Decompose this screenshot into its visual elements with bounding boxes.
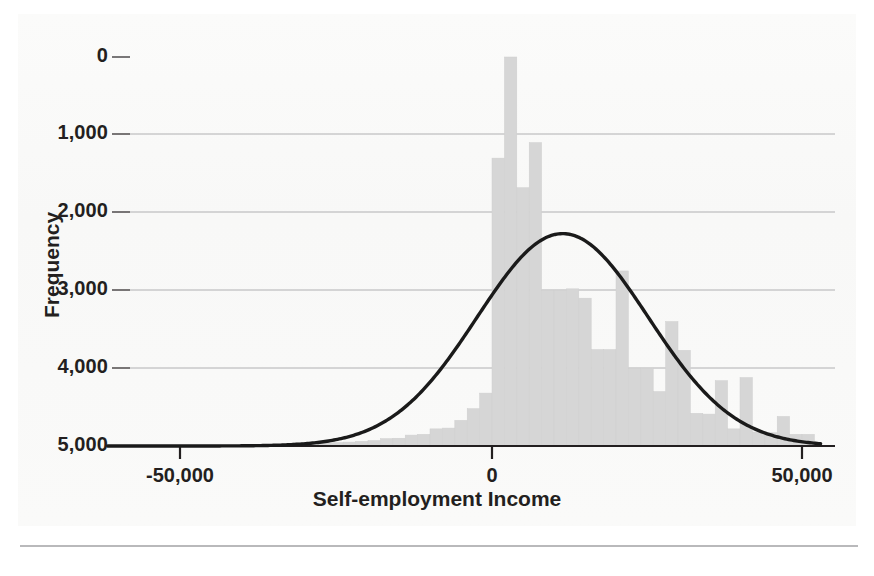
page-footer-rule	[20, 545, 858, 547]
histogram-bar	[380, 439, 392, 446]
histogram-bar	[418, 434, 430, 446]
histogram-bar	[442, 428, 454, 446]
histogram-bar	[690, 413, 702, 446]
histogram-bar	[542, 290, 554, 446]
histogram-bar	[492, 158, 504, 446]
histogram-bar	[604, 350, 616, 446]
histogram-bar	[777, 416, 789, 446]
histogram-bar	[628, 368, 640, 446]
histogram-bar	[653, 392, 665, 446]
x-axis-title: Self-employment Income	[0, 487, 874, 511]
x-axis-tick-label: 50,000	[722, 464, 874, 487]
axis-tick-marks	[112, 57, 802, 459]
histogram-bar	[566, 289, 578, 446]
histogram-bar	[591, 350, 603, 446]
histogram-bar	[455, 420, 467, 446]
x-axis-tick-label: 0	[412, 464, 572, 487]
y-axis-tick-label: 0	[0, 44, 108, 67]
histogram-bar	[579, 298, 591, 446]
histogram-bar	[517, 188, 529, 446]
x-axis-tick-label: -50,000	[100, 464, 260, 487]
histogram-bar	[504, 57, 516, 446]
histogram-bar	[666, 322, 678, 446]
histogram-bar	[641, 368, 653, 446]
histogram-figure: 01,0002,0003,0004,0005,000 -50,000050,00…	[0, 0, 874, 576]
y-axis-tick-label: 4,000	[0, 355, 108, 378]
y-axis-tick-label: 5,000	[0, 433, 108, 456]
y-axis-tick-label: 1,000	[0, 121, 108, 144]
histogram-bar	[554, 290, 566, 446]
histogram-bar	[430, 429, 442, 446]
histogram-bar	[529, 143, 541, 446]
histogram-bar	[405, 435, 417, 446]
histogram-bar	[393, 438, 405, 446]
histogram-bar	[467, 409, 479, 446]
histogram-bar	[480, 393, 492, 446]
histogram-bar	[740, 378, 752, 446]
histogram-bar	[703, 414, 715, 446]
y-axis-title: Frequency	[40, 212, 64, 318]
histogram-bar	[616, 271, 628, 446]
histogram-bar	[728, 429, 740, 446]
histogram-bars	[294, 57, 815, 446]
histogram-bar	[752, 432, 764, 446]
